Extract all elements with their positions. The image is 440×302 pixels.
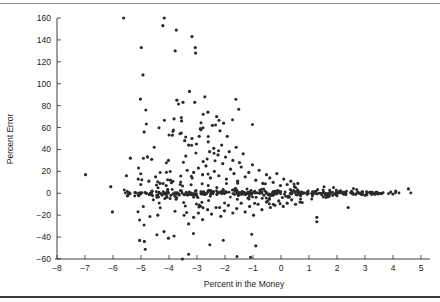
data-point [231,118,234,121]
data-point [178,192,181,195]
data-point [268,202,271,205]
data-point [286,202,289,205]
data-point [265,197,268,200]
data-point [352,187,355,190]
data-point [326,192,329,195]
data-point [126,195,129,198]
data-point [163,16,166,19]
x-tick-label: −1 [248,263,258,273]
data-point [329,191,332,194]
data-point [251,123,254,126]
data-point [292,189,295,192]
data-point [190,183,193,186]
data-point [301,201,304,204]
data-point [281,196,284,199]
data-point [279,202,282,205]
data-point [190,137,193,140]
data-point [235,207,238,210]
data-point [183,139,186,142]
data-point [194,46,197,49]
data-point [208,243,211,246]
data-point [172,234,175,237]
data-point [139,192,142,195]
data-point [237,194,240,197]
data-point [351,192,354,195]
data-point [270,194,273,197]
data-point [197,166,200,169]
data-point [167,133,170,136]
data-point [316,188,319,191]
data-point [249,193,252,196]
data-point [235,190,238,193]
data-point [206,111,209,114]
data-point [212,147,215,150]
data-point [179,175,182,178]
data-point [195,142,198,145]
data-point [194,151,197,154]
data-point [275,193,278,196]
data-point [235,146,238,149]
data-point [214,159,217,162]
data-point [202,160,205,163]
x-tick-label: −4 [164,263,174,273]
data-point [109,185,112,188]
x-tick-label: −2 [220,263,230,273]
data-points-layer [84,16,412,260]
data-point [387,192,390,195]
data-point [214,124,217,127]
data-point [335,189,338,192]
x-tick-label: 1 [307,263,312,273]
y-tick-label: 120 [37,57,51,67]
data-point [142,130,145,133]
data-point [152,198,155,201]
data-point [264,182,267,185]
data-point [158,126,161,129]
data-point [153,146,156,149]
data-point [204,193,207,196]
data-point [207,199,210,202]
x-tick-label: −3 [192,263,202,273]
data-point [229,168,232,171]
x-tick-label: 5 [419,263,424,273]
data-point [277,199,280,202]
data-point [166,178,169,181]
data-point [187,253,190,256]
data-point [240,165,243,168]
data-point [198,135,201,138]
data-point [192,196,195,199]
data-point [254,244,257,247]
data-point [286,183,289,186]
data-point [187,222,190,225]
data-point [231,192,234,195]
data-point [171,130,174,133]
data-point [253,192,256,195]
data-point [156,214,159,217]
data-point [171,134,174,137]
data-point [166,196,169,199]
y-tick-label: 160 [37,13,51,23]
data-point [269,206,272,209]
data-point [171,188,174,191]
data-point [203,95,206,98]
data-point [202,206,205,209]
data-point [177,103,180,106]
data-point [254,179,257,182]
data-point [325,196,328,199]
data-point [139,183,142,186]
data-point [299,194,302,197]
data-point [225,182,228,185]
data-point [316,193,319,196]
data-point [163,119,166,122]
data-point [204,164,207,167]
data-point [223,202,226,205]
y-tick-label: 80 [42,101,52,111]
data-point [215,186,218,189]
data-point [370,192,373,195]
data-point [256,203,259,206]
data-point [252,214,255,217]
data-point [221,162,224,165]
data-point [200,193,203,196]
y-tick-label: 40 [42,144,52,154]
y-tick-label: −60 [37,254,52,264]
data-point [158,202,161,205]
